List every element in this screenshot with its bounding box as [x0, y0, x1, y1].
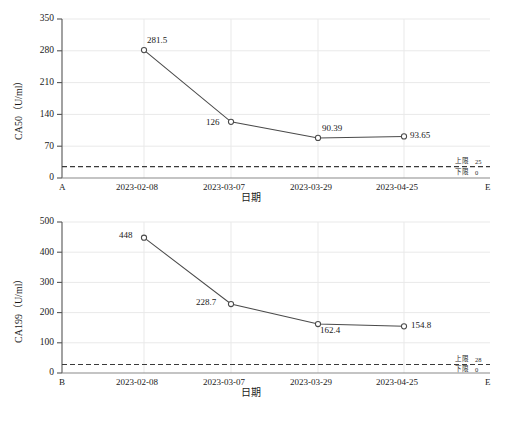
chart-panel-ca199: 500 400 300 200 100 0 CA199（U/ml） B 2023…: [0, 205, 506, 400]
ca50-x-axis-title: 日期: [241, 193, 261, 203]
ca50-upper-limit-label: 上限: [455, 158, 469, 165]
ca199-upper-limit-value: 28: [475, 357, 482, 364]
ca199-panel-tag: B: [59, 378, 65, 387]
ca50-xtick-1: 2023-03-07: [203, 183, 245, 192]
ca199-upper-limit-label: 上限: [455, 356, 469, 363]
ca199-x-axis-title: 日期: [241, 388, 261, 398]
ca50-xtick-3: 2023-04-25: [376, 183, 418, 192]
ca199-panel-end-tag: E: [485, 378, 491, 387]
ca50-point-label-3: 93.65: [410, 131, 430, 140]
ca50-xtick-0: 2023-02-08: [116, 183, 158, 192]
ca50-lower-limit-label: 下限: [455, 169, 469, 176]
ca50-point-label-0: 281.5: [147, 36, 167, 45]
figure-container: 350 280 210 140 70 0 CA50（U/ml） A 2023-0…: [0, 0, 506, 421]
ca199-y-axis-title: CA199（U/ml）: [14, 274, 24, 343]
ca50-ytick-0: 0: [16, 173, 54, 183]
ca50-xtick-2: 2023-03-29: [290, 183, 332, 192]
ca50-upper-limit-value: 25: [475, 159, 482, 166]
ca50-y-axis-title: CA50（U/ml）: [14, 76, 24, 140]
ca199-lower-limit-value: 0: [475, 367, 478, 374]
ca199-ytick-500: 500: [16, 217, 54, 227]
ca50-panel-end-tag: E: [485, 183, 491, 192]
ca50-ytick-350: 350: [16, 14, 54, 24]
ca50-ytick-280: 280: [16, 46, 54, 56]
ca199-lower-limit-label: 下限: [455, 366, 469, 373]
ca50-point-label-1: 126: [206, 118, 220, 127]
ca199-xtick-3: 2023-04-25: [376, 378, 418, 387]
ca50-plot-area: [0, 0, 506, 205]
ca199-ytick-400: 400: [16, 248, 54, 258]
ca199-plot-area: [0, 205, 506, 400]
ca199-point-label-3: 154.8: [411, 321, 431, 330]
ca199-point-label-2: 162.4: [320, 326, 340, 335]
ca50-ytick-70: 70: [16, 142, 54, 152]
ca199-xtick-1: 2023-03-07: [203, 378, 245, 387]
ca199-ytick-0: 0: [16, 368, 54, 378]
ca50-panel-tag: A: [59, 183, 66, 192]
chart-panel-ca50: 350 280 210 140 70 0 CA50（U/ml） A 2023-0…: [0, 0, 506, 205]
ca50-lower-limit-value: 0: [475, 170, 478, 177]
ca199-xtick-2: 2023-03-29: [290, 378, 332, 387]
ca199-point-label-0: 448: [119, 231, 133, 240]
ca50-point-label-2: 90.39: [322, 124, 342, 133]
ca199-point-label-1: 228.7: [196, 298, 216, 307]
ca199-xtick-0: 2023-02-08: [116, 378, 158, 387]
